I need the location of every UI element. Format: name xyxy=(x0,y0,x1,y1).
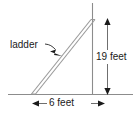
height-dimension-label: 19 feet xyxy=(96,51,127,62)
base-arrowhead-left xyxy=(32,100,39,106)
ladder-label: ladder xyxy=(10,39,38,50)
ladder-diagram: ladder 19 feet 6 feet xyxy=(0,0,139,114)
ladder-rail-right xyxy=(36,20,96,95)
ladder-leader-line xyxy=(45,44,56,50)
base-dimension-label: 6 feet xyxy=(49,97,74,108)
height-arrowhead-top xyxy=(104,18,110,25)
ladder-leader-arrowhead xyxy=(50,50,62,57)
base-arrowhead-right xyxy=(98,100,105,106)
ladder-rail-left xyxy=(32,20,92,95)
